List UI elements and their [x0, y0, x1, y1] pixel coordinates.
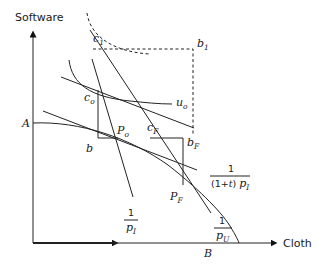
- trade-diagram: Software Cloth A B b b1 bF c1 co cF Po P…: [0, 0, 327, 268]
- label-A: A: [21, 117, 30, 130]
- x-axis-label: Cloth: [283, 237, 312, 250]
- label-co: co: [84, 91, 95, 106]
- svg-text:1: 1: [228, 163, 234, 174]
- label-Po: Po: [116, 124, 129, 139]
- production-frontier: [33, 123, 239, 243]
- slope-label-pI: 1 pI: [124, 207, 138, 236]
- slope-label-pU: 1 pU: [214, 215, 232, 244]
- svg-text:pU: pU: [216, 229, 230, 244]
- svg-text:pI: pI: [126, 221, 137, 236]
- y-axis-label: Software: [15, 11, 64, 24]
- budget-line-co: [61, 77, 194, 128]
- label-b1: b1: [197, 37, 209, 52]
- label-cF: cF: [147, 121, 159, 136]
- label-bF: bF: [187, 136, 200, 151]
- label-uo: uo: [176, 96, 188, 111]
- label-B: B: [203, 247, 212, 260]
- svg-text:1: 1: [219, 215, 225, 226]
- label-PF: PF: [169, 190, 183, 205]
- label-b: b: [86, 142, 93, 155]
- svg-text:(1+t) pI: (1+t) pI: [211, 177, 250, 192]
- slope-label-tariff: 1 (1+t) pI: [210, 163, 250, 192]
- label-c1: c1: [93, 32, 104, 47]
- dashed-trade-box: [93, 49, 193, 136]
- svg-text:1: 1: [128, 207, 134, 218]
